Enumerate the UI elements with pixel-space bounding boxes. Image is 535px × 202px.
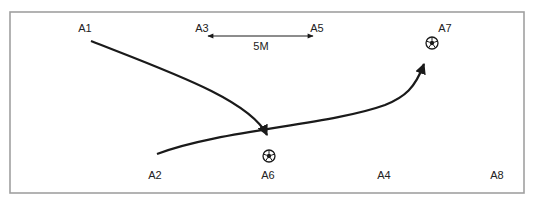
scale-bar: 5M xyxy=(208,36,313,52)
position-label-a5: A5 xyxy=(310,22,323,34)
position-label-a6: A6 xyxy=(261,169,274,181)
tactics-diagram: 5M A1 A2 A3 A4 A5 A6 A7 A8 xyxy=(0,0,535,202)
position-label-a1: A1 xyxy=(78,22,91,34)
soccer-ball-icon xyxy=(263,150,275,162)
position-label-a3: A3 xyxy=(195,22,208,34)
scale-bar-label: 5M xyxy=(253,40,268,52)
position-label-a8: A8 xyxy=(490,169,503,181)
run-path-a1-to-a6 xyxy=(91,41,267,135)
soccer-ball-icon xyxy=(426,37,438,49)
position-label-a2: A2 xyxy=(148,169,161,181)
position-label-a7: A7 xyxy=(438,22,451,34)
position-label-a4: A4 xyxy=(377,169,390,181)
pass-path-a2-to-a7 xyxy=(157,64,424,154)
